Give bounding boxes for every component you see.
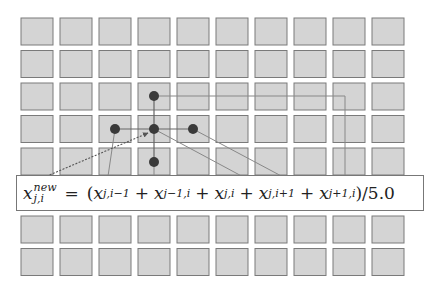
grid-cell [60, 116, 92, 143]
grid-cell [333, 249, 365, 276]
node-center [149, 124, 159, 134]
grid-cell [138, 51, 170, 78]
term-base: x [259, 183, 269, 203]
grid-cell [138, 18, 170, 45]
arrow-new-value [40, 133, 148, 179]
grid-cell [99, 51, 131, 78]
formula-close-div: )/5.0 [355, 183, 394, 203]
formula-plus: + [195, 183, 209, 203]
grid-cell [255, 51, 287, 78]
grid-cell [60, 148, 92, 175]
term-base: x [154, 183, 164, 203]
grid-cell [177, 18, 209, 45]
grid-cell [294, 249, 326, 276]
grid-cell [372, 116, 404, 143]
formula-lhs: x [23, 183, 33, 203]
node-right [188, 124, 198, 134]
term-sub: j,i+1 [268, 187, 295, 200]
grid-cell [294, 51, 326, 78]
grid-cell [372, 148, 404, 175]
grid-cell [216, 18, 248, 45]
stencil-diagram [0, 0, 431, 292]
grid-cell [60, 51, 92, 78]
term-base: x [319, 183, 329, 203]
grid-cell [372, 83, 404, 110]
grid-cells [21, 18, 404, 276]
formula-plus: + [135, 183, 149, 203]
grid-cell [294, 216, 326, 243]
grid-cell [177, 249, 209, 276]
grid-cell [177, 51, 209, 78]
formula-box: x new j,i = ( xj,i−1 + xj−1,i + xj,i + x… [16, 175, 424, 211]
grid-cell [216, 249, 248, 276]
term-base: x [94, 183, 104, 203]
grid-cell [333, 216, 365, 243]
grid-cell [21, 249, 53, 276]
grid-cell [372, 18, 404, 45]
formula-plus: + [240, 183, 254, 203]
term-sub: j,i−1 [103, 187, 130, 200]
formula-plus: + [300, 183, 314, 203]
formula-open: ( [87, 183, 94, 203]
grid-cell [99, 216, 131, 243]
grid-cell [60, 83, 92, 110]
formula-equals: = [65, 183, 79, 203]
node-left [110, 124, 120, 134]
grid-cell [216, 51, 248, 78]
term-sub: j+1,i [329, 187, 356, 200]
grid-cell [60, 18, 92, 45]
grid-cell [255, 249, 287, 276]
node-up [149, 91, 159, 101]
grid-cell [333, 148, 365, 175]
grid-cell [294, 18, 326, 45]
grid-cell [216, 116, 248, 143]
grid-cell [333, 51, 365, 78]
grid-cell [99, 249, 131, 276]
grid-cell [60, 216, 92, 243]
grid-cell [372, 249, 404, 276]
term-base: x [214, 183, 224, 203]
grid-cell [177, 216, 209, 243]
grid-cell [21, 216, 53, 243]
term-sub: j−1,i [164, 187, 191, 200]
node-down [149, 157, 159, 167]
grid-cell [99, 83, 131, 110]
grid-cell [216, 216, 248, 243]
grid-cell [255, 116, 287, 143]
grid-cell [21, 51, 53, 78]
grid-cell [21, 18, 53, 45]
formula-lhs-scripts: new j,i [34, 182, 57, 204]
grid-cell [333, 18, 365, 45]
grid-cell [99, 148, 131, 175]
grid-cell [60, 249, 92, 276]
grid-cell [294, 148, 326, 175]
grid-cell [333, 116, 365, 143]
grid-cell [21, 148, 53, 175]
grid-cell [255, 18, 287, 45]
grid-cell [255, 216, 287, 243]
grid-cell [177, 148, 209, 175]
grid-cell [21, 116, 53, 143]
grid-cell [294, 116, 326, 143]
grid-cell [138, 249, 170, 276]
grid-cell [372, 51, 404, 78]
grid-cell [21, 83, 53, 110]
grid-cell [138, 216, 170, 243]
grid-cell [99, 18, 131, 45]
grid-cell [372, 216, 404, 243]
term-sub: j,i [224, 187, 234, 200]
